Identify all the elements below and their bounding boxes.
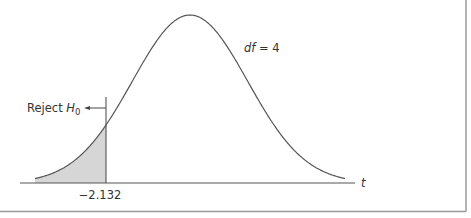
df-label: df = 4 (244, 41, 280, 55)
density-curve (35, 15, 345, 179)
chart-canvas: Reject H0 df = 4 −2.132 t (0, 0, 471, 218)
x-axis-label: t (361, 176, 366, 190)
rejection-region-shading (35, 125, 106, 183)
reject-arrow-head-icon (84, 106, 90, 110)
t-distribution-figure: Reject H0 df = 4 −2.132 t (0, 0, 471, 218)
reject-h0-label: Reject H0 (27, 101, 80, 117)
critical-value-label: −2.132 (79, 188, 122, 202)
